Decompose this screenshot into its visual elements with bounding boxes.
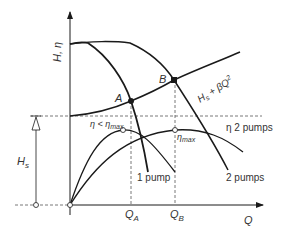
eta-reduced-label: η < ηmax: [90, 119, 124, 130]
two-pumps-label: 2 pumps: [226, 172, 264, 183]
eta-two-pumps-label: η 2 pumps: [226, 122, 273, 133]
point-b-label: B: [159, 73, 166, 85]
eta-max-label: ηmax: [177, 132, 196, 143]
static-head-label: Hs: [17, 155, 29, 170]
static-head-base-point: [34, 203, 39, 208]
two-pumps-efficiency-curve: [70, 130, 243, 205]
operating-point-a: [128, 98, 134, 104]
one-pump-efficiency-curve: [70, 130, 175, 205]
y-axis-label: H, η: [51, 42, 63, 62]
operating-point-b: [171, 77, 177, 83]
one-pump-label: 1 pump: [137, 172, 171, 183]
one-pump-head-curve: [70, 42, 148, 172]
qb-label: QB: [170, 208, 185, 223]
static-head-arrow-icon: [32, 117, 40, 130]
point-a-label: A: [114, 92, 122, 104]
parallel-pumps-diagram: H, η Q A B QA QB Hs Hs + βQ2 η < ηmax ηm…: [0, 0, 287, 232]
system-curve-label: Hs + βQ2: [195, 74, 235, 106]
origin-point: [68, 203, 73, 208]
x-axis-label: Q: [244, 214, 253, 226]
qa-label: QA: [125, 208, 139, 223]
